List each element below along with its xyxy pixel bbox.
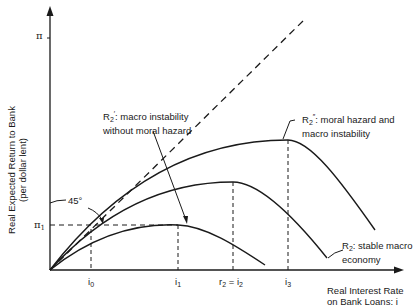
i0-tick-label: i0 (88, 276, 94, 290)
y-axis-label-line1: Real Expected Return to Bank (6, 50, 17, 290)
curve-r2-double-prime-label: R2″: moral hazard and macro instability (302, 111, 394, 139)
curve-r2-double-prime (50, 140, 375, 270)
i1-tick-label: i1 (175, 276, 181, 290)
leader-r2-prime-arrowhead-icon (183, 216, 188, 224)
curve-r2-stable-label: R2: stable macro economy (342, 240, 412, 265)
angle-label: 45° (68, 195, 82, 206)
x-axis-label: Real Interest Rate on Bank Loans: i (327, 285, 404, 307)
x-axis-label-line1: Real Interest Rate (327, 285, 404, 296)
r2-i2-tick-label: r2 = i2 (219, 276, 243, 290)
i3-tick-label: i3 (285, 276, 291, 290)
leader-r2-stable (328, 250, 343, 258)
leader-45 (50, 200, 66, 203)
pi1-tick-label: π1 (34, 219, 45, 234)
leader-r2-prime (153, 131, 186, 220)
y-axis-arrow-icon (47, 6, 54, 16)
x-axis-arrow-icon (394, 267, 404, 274)
leader-r2-double-prime (283, 120, 295, 139)
curve-r2-prime-label: R2′: macro instability without moral haz… (103, 108, 191, 136)
pi-tick-label: π (36, 30, 43, 41)
x-axis-label-line2: on Bank Loans: i (327, 296, 404, 307)
y-axis-label-line2: (per dollar lent) (17, 50, 28, 290)
y-axis-label: Real Expected Return to Bank (per dollar… (6, 50, 28, 290)
